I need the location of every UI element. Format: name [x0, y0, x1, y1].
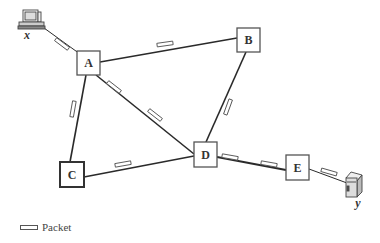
network-diagram: A B C D E x y — [0, 0, 380, 243]
packet-icon — [55, 38, 70, 51]
link-x-a — [44, 28, 80, 54]
link-c-d — [84, 156, 194, 177]
node-b-label: B — [244, 33, 252, 47]
node-c: C — [60, 162, 84, 187]
packet-icon — [148, 109, 163, 122]
node-a-label: A — [84, 56, 93, 70]
host-y-label: y — [353, 196, 361, 210]
link-b-d — [206, 52, 246, 142]
link-a-c — [70, 75, 86, 162]
host-x-label: x — [23, 28, 30, 42]
packet-legend-icon — [20, 225, 38, 230]
node-a: A — [77, 51, 100, 75]
packet-icon — [157, 41, 173, 47]
node-c-label: C — [68, 168, 77, 182]
node-d-label: D — [201, 148, 210, 162]
node-e-label: E — [293, 161, 301, 175]
computer-icon — [18, 10, 45, 29]
packet-icon — [107, 81, 122, 94]
node-b: B — [237, 28, 260, 52]
legend-packet-label: Packet — [42, 221, 71, 233]
node-d: D — [194, 142, 217, 167]
packet-icon — [115, 161, 131, 167]
node-e: E — [286, 155, 309, 180]
server-icon — [346, 172, 362, 197]
legend: Packet — [20, 221, 71, 233]
packet-icon — [70, 101, 76, 117]
